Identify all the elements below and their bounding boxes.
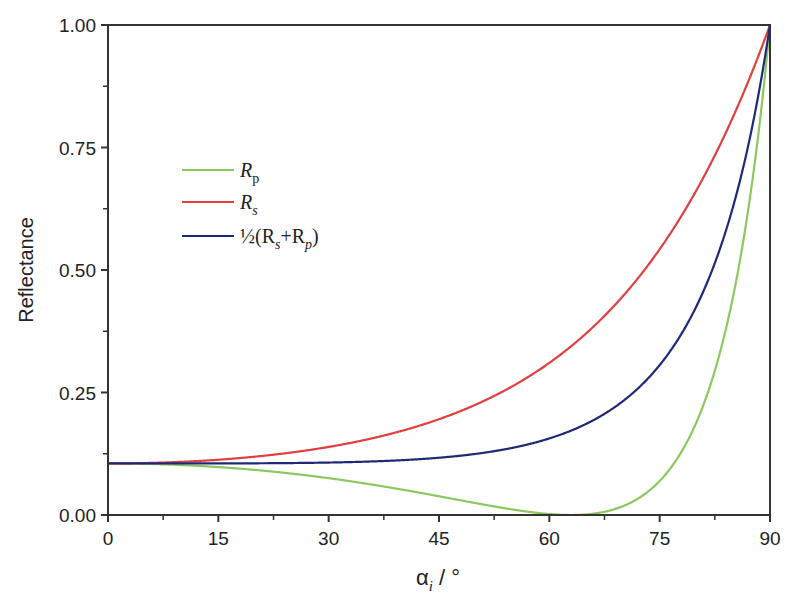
y-tick-label: 0.00	[59, 505, 96, 526]
x-tick-label: 15	[208, 528, 229, 549]
y-tick-label: 0.25	[59, 383, 96, 404]
rp-curve	[108, 25, 770, 515]
x-axis-label: αi / °	[416, 565, 460, 594]
x-tick-label: 90	[759, 528, 780, 549]
x-tick-label: 0	[103, 528, 114, 549]
plot-curves	[108, 25, 770, 515]
x-tick-label: 60	[539, 528, 560, 549]
y-tick-label: 0.50	[59, 260, 96, 281]
legend: Rp Rs ½(Rs+Rp)	[182, 159, 319, 252]
x-tick-label: 45	[428, 528, 449, 549]
y-axis-label: Reflectance	[15, 217, 37, 323]
reflectance-chart: 0153045607590 0.000.250.500.751.00 Refle…	[0, 0, 793, 613]
rs-curve	[108, 25, 770, 463]
x-tick-label: 30	[318, 528, 339, 549]
plot-frame	[108, 25, 770, 515]
x-axis-ticks: 0153045607590	[103, 515, 781, 549]
y-axis-ticks: 0.000.250.500.751.00	[59, 15, 108, 526]
x-tick-label: 75	[649, 528, 670, 549]
legend-label-rp: Rp	[239, 159, 259, 186]
average-curve	[108, 25, 770, 463]
y-tick-label: 0.75	[59, 138, 96, 159]
y-tick-label: 1.00	[59, 15, 96, 36]
legend-label-rs: Rs	[239, 191, 258, 218]
legend-label-average: ½(Rs+Rp)	[240, 225, 319, 252]
